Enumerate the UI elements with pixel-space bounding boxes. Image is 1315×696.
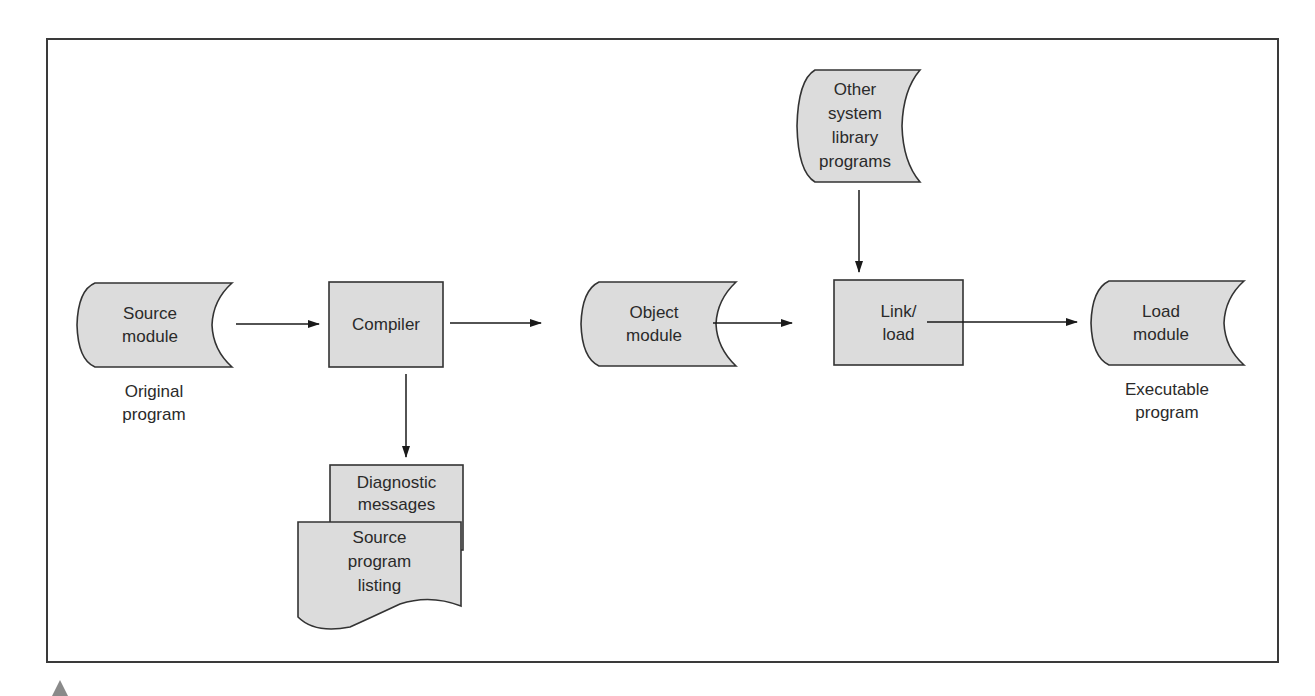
original-program-caption: Original program — [74, 380, 234, 426]
source-module-label: Source module — [80, 283, 220, 367]
object-module-label: Object module — [584, 282, 724, 366]
figure-marker-triangle-icon — [52, 680, 68, 696]
diagram-canvas: Source module Compiler Object module Lin… — [0, 0, 1315, 696]
system-library-label: Other system library programs — [800, 70, 910, 182]
link-load-label: Link/ load — [834, 280, 963, 365]
compiler-label: Compiler — [329, 282, 443, 367]
executable-program-caption: Executable program — [1092, 378, 1242, 424]
load-module-label: Load module — [1092, 281, 1230, 365]
source-listing-label: Source program listing — [298, 526, 461, 598]
diagnostic-messages-label: Diagnostic messages — [330, 466, 463, 522]
